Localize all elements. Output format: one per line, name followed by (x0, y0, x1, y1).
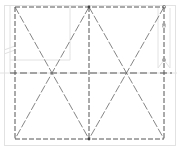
drawing-canvas: Dashed frame with triangular bracing (0, 0, 177, 150)
diagram-svg (0, 0, 177, 150)
background-outline (0, 5, 177, 146)
node-top-center (88, 6, 91, 9)
node-bottom-center (88, 138, 91, 141)
